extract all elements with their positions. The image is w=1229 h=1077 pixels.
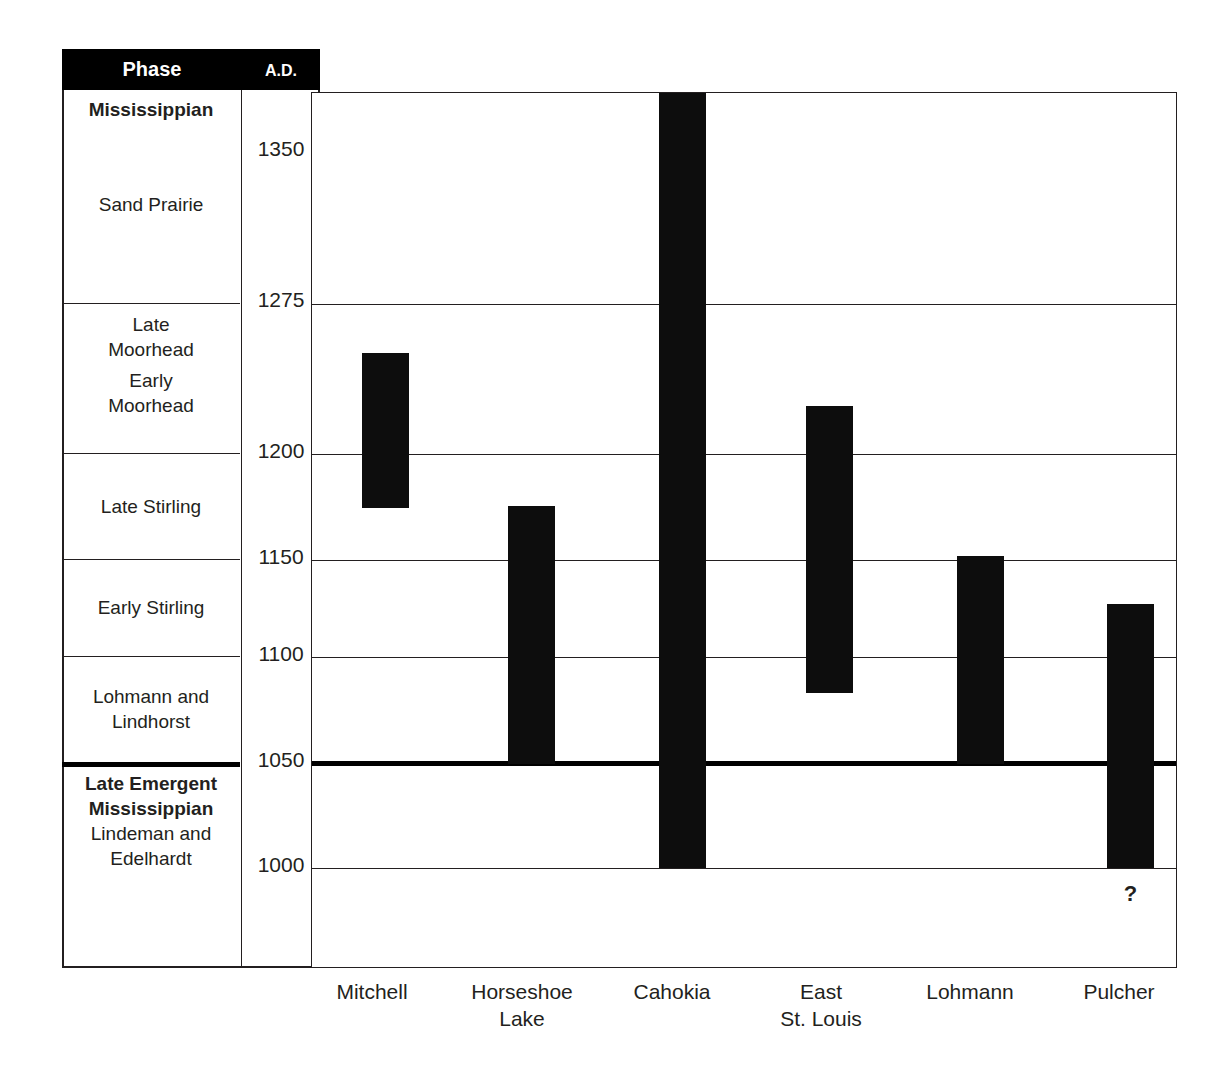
bar-lohmann [957,556,1004,764]
phase-label-line: Lindhorst [112,709,190,734]
phase-label-line: Moorhead [108,393,194,418]
phase-cell-late-stirling: Late Stirling [62,453,240,559]
bar-pulcher [1107,604,1154,868]
phase-label-line: Early Stirling [98,595,205,620]
x-axis-label-pulcher: Pulcher [1035,978,1203,1005]
x-axis-label-line: Lake [438,1005,606,1032]
x-axis-label-horseshoe-lake: Horseshoe Lake [438,978,606,1032]
x-axis-label-line: East [737,978,905,1005]
phase-label-line: Early [129,368,172,393]
y-tick-label-1000: 1000 [242,853,320,877]
phase-label-line: Sand Prairie [99,192,204,217]
y-tick-label-1200: 1200 [242,439,320,463]
bar-cahokia [659,93,706,868]
y-tick-label-1050: 1050 [242,748,320,772]
bar-east-st-louis [806,406,853,693]
x-axis-label-line: Lohmann [886,978,1054,1005]
gridline-1150 [312,560,1176,561]
phase-label-line: Lohmann and [93,684,209,709]
phase-label-line: Edelhardt [110,846,191,871]
y-tick-label-1100: 1100 [242,642,320,666]
gridline-1200 [312,454,1176,455]
x-axis-label-east-st-louis: East St. Louis [737,978,905,1032]
gridline-1000 [312,868,1176,869]
phase-divider-1275 [62,303,240,304]
phase-label-line: Moorhead [108,337,194,362]
phase-label-line: Mississippian [89,796,214,821]
gridline-1100 [312,657,1176,658]
phase-label-line: Late Emergent [85,771,217,796]
bar-mitchell [362,353,409,508]
phase-divider-1050 [62,762,240,767]
x-axis-label-mitchell: Mitchell [288,978,456,1005]
x-axis-label-line: Horseshoe [438,978,606,1005]
x-axis-label-line: Pulcher [1035,978,1203,1005]
phase-label-line: Late Stirling [101,494,201,519]
phase-cell-mississippian: Mississippian [62,93,240,139]
x-axis-label-line: St. Louis [737,1005,905,1032]
table-header-row: Phase A.D. [62,49,320,90]
bar-horseshoe-lake [508,506,555,764]
phase-cell-lohmann-lindhorst: Lohmann and Lindhorst [62,656,240,762]
phase-label-line: Mississippian [89,97,214,122]
phase-cell-early-stirling: Early Stirling [62,559,240,656]
phase-table: Phase A.D. Mississippian Sand Prairie La… [62,49,320,968]
column-header-phase: Phase [62,49,242,90]
phase-cell-sand-prairie: Sand Prairie [62,159,240,249]
column-header-ad: A.D. [242,49,320,90]
x-axis-label-cahokia: Cahokia [588,978,756,1005]
phase-cell-late-emergent-mississippian: Late Emergent Mississippian Lindeman and… [62,771,240,881]
gridline-1275 [312,304,1176,305]
phase-label-line: Late [133,312,170,337]
phase-cell-early-moorhead: Early Moorhead [62,367,240,419]
x-axis-label-line: Cahokia [588,978,756,1005]
phase-label-line: Lindeman and [91,821,211,846]
plot-area: ? [311,92,1177,968]
scale-column-frame [242,90,320,968]
y-tick-label-1350: 1350 [242,137,320,161]
gridline-1050 [312,761,1176,766]
y-tick-label-1275: 1275 [242,288,320,312]
phase-cell-late-moorhead: Late Moorhead [62,311,240,363]
chronology-figure: Phase A.D. Mississippian Sand Prairie La… [0,0,1229,1077]
x-axis-label-line: Mitchell [288,978,456,1005]
annotation-question-mark-pulcher: ? [1107,881,1154,907]
x-axis-label-lohmann: Lohmann [886,978,1054,1005]
y-tick-label-1150: 1150 [242,545,320,569]
